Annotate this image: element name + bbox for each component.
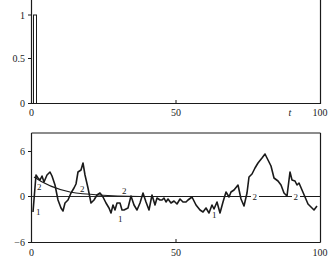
top-x-tick-label: 100 [313,107,328,118]
bottom-y-tick-label: −6 [14,237,25,248]
bottom-x-tick-label: 100 [313,247,328,258]
bottom-y-tick-label: 6 [20,146,25,157]
top-y-tick-label: 0.5 [13,53,26,64]
impulse-bar [34,15,37,104]
top-y-tick-label: 1 [20,10,25,21]
bottom-y-tick-label: 0 [20,191,25,202]
top-panel: 1 0.5 0 0 50 100 t [13,0,328,118]
top-x-axis-title: t [289,107,292,118]
bottom-x-tick-label: 0 [29,247,34,258]
series-1-curve [33,154,317,213]
top-x-tick-label: 50 [171,107,181,118]
curve-label: 2 [37,182,42,192]
curve-label: 2 [294,192,299,202]
curve-label: 1 [212,210,217,220]
bottom-panel: 6 0 −6 0 50 100 1 2 2 2 1 1 2 2 [14,133,327,258]
curve-label: 2 [80,184,85,194]
top-x-tick-label: 0 [29,107,34,118]
figure: 1 0.5 0 0 50 100 t 6 0 −6 0 50 100 [0,0,332,270]
curve-label: 1 [118,214,123,224]
top-y-tick-label: 0 [20,98,25,109]
bottom-x-tick-label: 50 [171,247,181,258]
curve-label: 1 [36,207,41,217]
curve-label: 2 [253,192,258,202]
curve-label: 2 [122,186,127,196]
